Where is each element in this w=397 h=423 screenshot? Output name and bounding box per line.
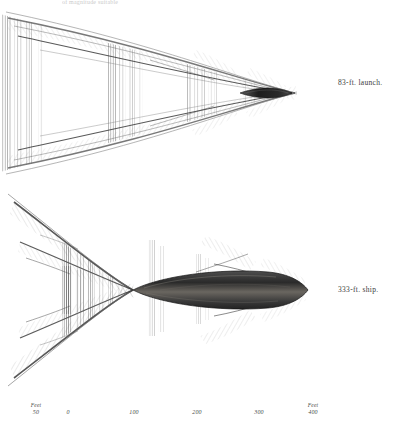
scale-tick-0: Feet 0 (56, 402, 80, 416)
scale-tick-200: Feet 200 (184, 402, 210, 416)
kelvin-wedge-launch (2, 8, 297, 178)
scale-value-100: 100 (121, 409, 147, 416)
scale-tick-100: Feet 100 (121, 402, 147, 416)
scale-tick-300: Feet 300 (246, 402, 272, 416)
scale-value-50: 50 (22, 409, 50, 416)
scale-value-400: 400 (299, 409, 327, 416)
engraving-plate: of magnitude suitable (0, 0, 397, 423)
feet-scale: Feet 50 Feet 0 Feet 100 Feet 200 Feet 30… (0, 402, 397, 423)
figure-label-launch: 83-ft. launch. (338, 78, 382, 87)
wave-figure-launch (0, 8, 330, 178)
scale-tick-400: Feet 400 (299, 402, 327, 416)
wave-figure-ship (0, 180, 330, 395)
scale-value-300: 300 (246, 409, 272, 416)
kelvin-wedge-ship (8, 180, 308, 395)
wave-pattern-ship-svg (0, 180, 330, 395)
scale-value-200: 200 (184, 409, 210, 416)
scale-tick-50: Feet 50 (22, 402, 50, 416)
wave-pattern-launch-svg (0, 8, 330, 178)
scale-unit-right: Feet (299, 402, 327, 409)
figure-label-ship: 333-ft. ship. (338, 285, 378, 294)
scale-unit-left: Feet (22, 402, 50, 409)
scale-value-0: 0 (56, 409, 80, 416)
top-caption: of magnitude suitable (62, 0, 202, 7)
